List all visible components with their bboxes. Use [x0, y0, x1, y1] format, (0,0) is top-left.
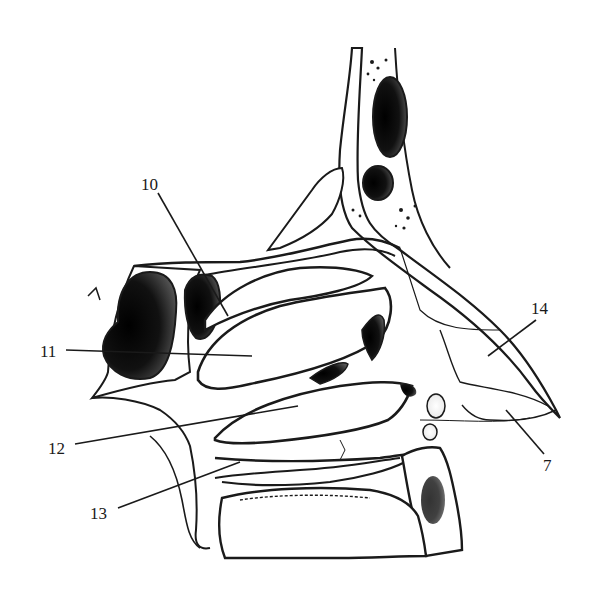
label-14: 14	[531, 300, 548, 317]
label-13: 13	[90, 505, 107, 522]
anatomical-illustration: 10 11 12 13 14 7	[0, 0, 600, 605]
label-10: 10	[141, 176, 158, 193]
label-7: 7	[543, 457, 552, 474]
label-11: 11	[40, 343, 56, 360]
label-12: 12	[48, 440, 65, 457]
